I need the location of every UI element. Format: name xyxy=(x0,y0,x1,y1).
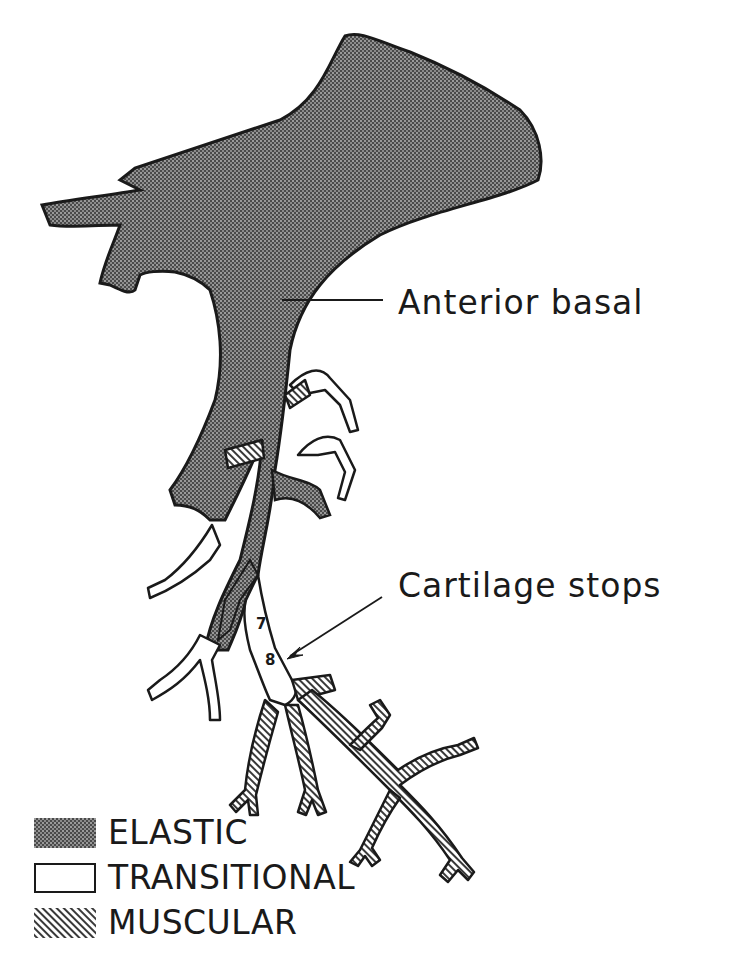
legend-item-transitional: TRANSITIONAL xyxy=(34,855,355,900)
legend-label: TRANSITIONAL xyxy=(108,858,355,897)
legend-item-elastic: ELASTIC xyxy=(34,810,355,855)
muscular-swatch-icon xyxy=(34,908,96,938)
cartilage-stops-arrow-line xyxy=(290,597,382,656)
cartilage-stops-label: Cartilage stops xyxy=(398,566,662,605)
legend-item-muscular: MUSCULAR xyxy=(34,900,355,945)
elastic-swatch-icon xyxy=(34,818,96,848)
elastic-segment xyxy=(42,34,541,650)
legend-label: ELASTIC xyxy=(108,813,248,852)
legend: ELASTIC TRANSITIONAL MUSCULAR xyxy=(34,810,355,945)
anterior-basal-label: Anterior basal xyxy=(398,283,643,322)
transitional-swatch-icon xyxy=(34,863,96,893)
legend-label: MUSCULAR xyxy=(108,903,297,942)
generation-7-marker: 7 xyxy=(256,615,266,633)
generation-8-marker: 8 xyxy=(265,651,275,669)
